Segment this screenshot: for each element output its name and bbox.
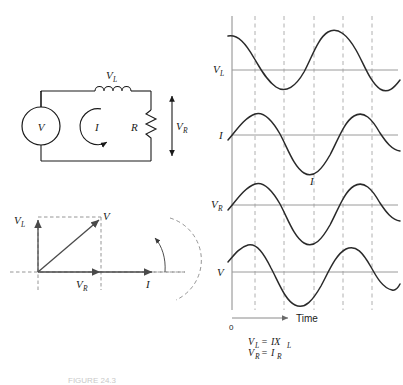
figure-root: V V L I R V R xyxy=(0,0,403,385)
figure-caption: FIGURE 24.3 xyxy=(0,0,403,385)
caption-label: FIGURE 24.3 xyxy=(68,376,117,385)
